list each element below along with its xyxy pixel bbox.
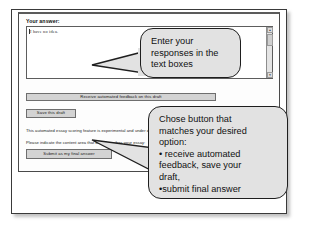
scroll-up-arrow-icon[interactable]: ▲ [267,27,273,33]
answer-textarea-value: I have no idea. [30,29,58,34]
scrollbar-thumb[interactable] [267,34,273,46]
callout-choose-line2: matches your desired [159,126,287,138]
scroll-down-arrow-icon[interactable]: ▼ [267,72,273,78]
callout-choose-line5: feedback, save your [159,160,287,172]
save-draft-button[interactable]: Save this draft [26,109,76,118]
callout-choose-line3: option: [159,137,287,149]
submit-final-answer-button[interactable]: Submit as my final answer [26,149,112,159]
callout-enter-line2: responses in the [151,48,240,60]
callout-choose-line6: draft, [159,172,287,184]
callout-choose-line4: • receive automated [159,149,287,161]
scanned-page-frame: Your answer: I have no idea. ▲ ▼ Receive… [11,9,287,214]
answer-label: Your answer: [26,18,60,24]
textarea-scrollbar[interactable]: ▲ ▼ [266,27,272,78]
receive-feedback-button[interactable]: Receive automated feedback on this draft [26,93,216,101]
callout-choose-line1: Chose button that [159,114,287,126]
content-area-prompt: Please indicate the content area that be… [26,140,145,145]
callout-choose-line7: •submit final answer [159,184,287,196]
callout-enter-line1: Enter your [151,36,240,48]
callout-choose-button: Chose button that matches your desired o… [148,106,288,199]
callout-enter-responses: Enter your responses in the text boxes [140,28,241,78]
callout-enter-line3: text boxes [151,59,240,71]
